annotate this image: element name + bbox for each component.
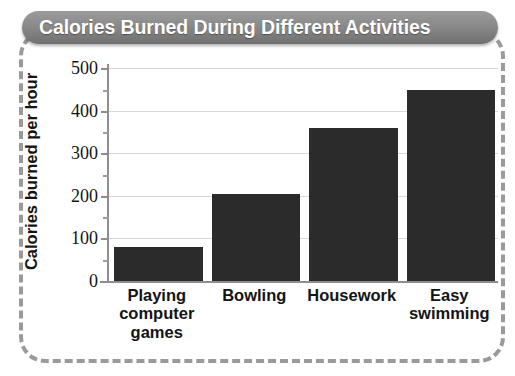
y-major-tick [101, 238, 109, 240]
chart-title-banner: Calories Burned During Different Activit… [22, 11, 498, 44]
chart-figure: Calories Burned During Different Activit… [0, 0, 515, 376]
x-category-label-line: games [108, 323, 206, 341]
y-tick-label: 100 [71, 228, 98, 249]
x-axis-line [100, 281, 498, 283]
y-major-tick [101, 68, 109, 70]
x-category-label-line: Playing [108, 286, 206, 304]
x-category-label: Playingcomputergames [108, 286, 206, 341]
y-tick-label: 300 [71, 143, 98, 164]
y-tick-label: 200 [71, 185, 98, 206]
y-tick-label: 500 [71, 58, 98, 79]
x-category-label-line: Housework [303, 286, 401, 304]
y-axis-title: Calories burned per hour [19, 58, 45, 284]
y-tick-label: 0 [89, 271, 98, 292]
plot-area [108, 64, 498, 281]
y-axis-tick-labels: 0100200300400500 [50, 58, 102, 290]
x-category-label: Housework [303, 286, 401, 304]
bar [114, 247, 203, 281]
x-category-label-line: computer [108, 304, 206, 322]
bar [212, 194, 301, 281]
y-minor-tick [103, 175, 109, 177]
y-tick-label: 400 [71, 100, 98, 121]
x-axis-category-labels: PlayingcomputergamesBowlingHouseworkEasy… [108, 286, 500, 366]
y-major-tick [101, 111, 109, 113]
gridline [108, 68, 498, 69]
y-major-tick [101, 153, 109, 155]
chart-plot-container: Calories burned per hour 010020030040050… [0, 0, 515, 376]
x-category-label: Bowling [206, 286, 304, 304]
x-category-label-line: Bowling [206, 286, 304, 304]
page-title: Calories Burned During Different Activit… [39, 16, 431, 39]
y-minor-tick [103, 217, 109, 219]
x-category-label-line: swimming [401, 304, 499, 322]
y-major-tick [101, 281, 109, 283]
y-major-tick [101, 196, 109, 198]
y-minor-tick [103, 260, 109, 262]
bar [407, 90, 496, 281]
y-minor-tick [103, 132, 109, 134]
y-axis-line [107, 64, 109, 283]
x-category-label: Easyswimming [401, 286, 499, 323]
bar [309, 128, 398, 281]
y-minor-tick [103, 90, 109, 92]
x-category-label-line: Easy [401, 286, 499, 304]
y-axis-title-text: Calories burned per hour [23, 72, 42, 269]
